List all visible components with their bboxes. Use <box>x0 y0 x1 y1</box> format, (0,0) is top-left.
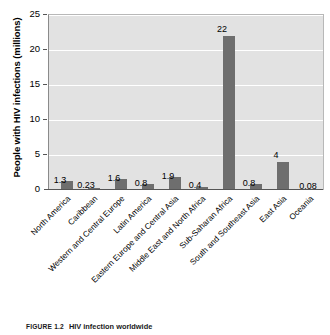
bar-value-sub-saharan-africa: 22 <box>210 24 234 34</box>
figure-caption-number: FIGURE 1.2 <box>26 323 64 330</box>
bar-value-east-asia: 4 <box>264 150 288 160</box>
figure-caption-text: HIV infection worldwide <box>69 322 152 331</box>
plot-area <box>48 14 324 190</box>
bar-value-latin-america: 0.8 <box>129 178 153 188</box>
bar-value-caribbean: 0.23 <box>71 180 101 190</box>
y-tick-mark-5 <box>43 154 47 155</box>
y-tick-label-0: 0 <box>18 184 40 194</box>
gridline-15 <box>49 85 323 86</box>
x-label-eastern-europe-and-central-asia: Eastern Europe and Central Asia <box>51 194 180 323</box>
x-label-north-america: North America <box>19 194 72 247</box>
y-tick-mark-20 <box>43 49 47 50</box>
y-tick-label-20: 20 <box>18 44 40 54</box>
gridline-20 <box>49 50 323 51</box>
bar-sub-saharan-africa <box>223 36 235 190</box>
gridline-10 <box>49 120 323 121</box>
bar-value-south-and-southeast-asia: 0.8 <box>237 178 261 188</box>
y-axis-title: People with HIV infections (millions) <box>11 0 22 198</box>
figure-caption: FIGURE 1.2HIV infection worldwide <box>26 322 152 331</box>
bar-value-eastern-europe-and-central-asia: 1.9 <box>156 171 180 181</box>
y-tick-mark-15 <box>43 84 47 85</box>
y-tick-mark-25 <box>43 14 47 15</box>
y-tick-mark-10 <box>43 119 47 120</box>
bar-value-middle-east-and-north-africa: 0.4 <box>183 180 207 190</box>
y-tick-label-25: 25 <box>18 9 40 19</box>
y-tick-label-10: 10 <box>18 114 40 124</box>
bar-value-oceania: 0.08 <box>293 181 323 191</box>
bar-value-north-america: 1.3 <box>48 175 72 185</box>
y-tick-label-15: 15 <box>18 79 40 89</box>
y-tick-label-5: 5 <box>18 149 40 159</box>
gridline-25 <box>49 15 323 16</box>
figure-hiv-infection-worldwide: People with HIV infections (millions) 25… <box>0 0 330 335</box>
bar-value-western-and-central-europe: 1.6 <box>102 173 126 183</box>
bar-east-asia <box>277 162 289 190</box>
